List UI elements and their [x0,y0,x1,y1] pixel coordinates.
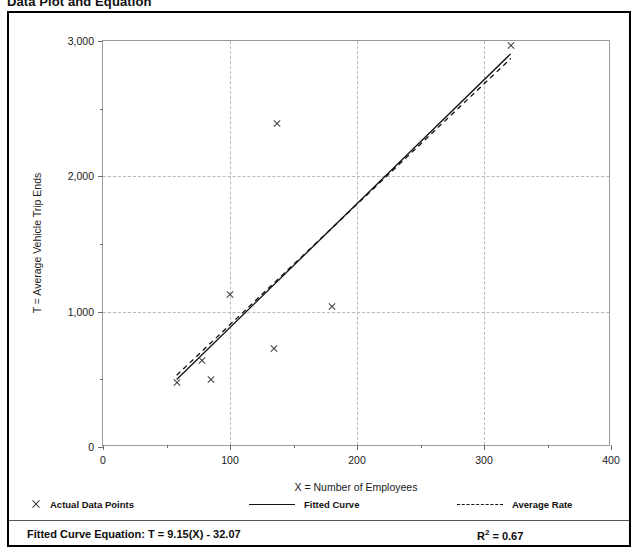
footer-divider [9,520,629,521]
y-axis-title: T = Average Vehicle Trip Ends [31,173,43,314]
equation-row: Fitted Curve Equation: T = 9.15(X) - 32.… [9,524,629,545]
data-point [226,290,235,299]
legend-item-fitted-curve: Fitted Curve [249,494,359,514]
data-point [506,41,515,50]
x-tick-label-400: 400 [602,454,620,466]
y-tick-label-3000: 3,000 [68,35,94,47]
legend-label-fitted-curve: Fitted Curve [304,499,359,510]
y-tick-label-0: 0 [88,441,94,453]
x-tick-label-200: 200 [348,454,366,466]
average-rate-line [177,59,511,376]
legend-label-actual-data-points: Actual Data Points [50,499,134,510]
data-point [327,302,336,311]
fitted-curve-line [177,54,511,380]
r-squared-value: R2 = 0.67 [477,528,523,542]
legend-item-actual-data-points: Actual Data Points [31,494,134,514]
x-marker-icon [31,499,41,509]
dashed-line-icon [457,504,503,505]
legend-label-average-rate: Average Rate [512,499,572,510]
data-point [206,375,215,384]
page-title: Data Plot and Equation [7,0,151,9]
data-point [198,356,207,365]
data-point [270,344,279,353]
chart-screenshot: Data Plot and Equation T = Average Vehic… [0,0,638,553]
x-tick-400 [611,445,612,450]
x-tick-label-300: 300 [475,454,493,466]
r-squared-number: = 0.67 [489,530,523,542]
chart-frame: T = Average Vehicle Trip Ends X = Number… [7,11,631,547]
r-squared-label: R [477,530,485,542]
chart-plot-area: T = Average Vehicle Trip Ends X = Number… [9,13,629,488]
data-point [272,119,281,128]
fitted-curve-equation: Fitted Curve Equation: T = 9.15(X) - 32.… [27,528,241,540]
x-tick-label-100: 100 [221,454,239,466]
data-point [172,378,181,387]
chart-legend: Actual Data Points Fitted Curve Average … [9,494,629,520]
plot-box: 0 1,000 2,000 3,000 0 100 200 300 400 [102,40,610,446]
y-tick-label-1000: 1,000 [68,306,94,318]
x-tick-label-0: 0 [100,454,106,466]
solid-line-icon [249,504,295,505]
x-axis-title: X = Number of Employees [295,481,418,493]
legend-item-average-rate: Average Rate [457,494,572,514]
y-tick-label-2000: 2,000 [68,170,94,182]
